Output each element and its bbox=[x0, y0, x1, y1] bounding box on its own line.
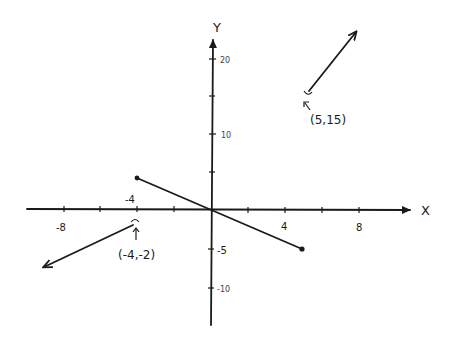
open-endpoint-right bbox=[304, 91, 312, 94]
annotation-right-label: (5,15) bbox=[310, 113, 346, 127]
annotation-arrow-right bbox=[305, 103, 310, 110]
y-axis-line bbox=[211, 40, 213, 325]
x-axis-label: X bbox=[421, 203, 430, 218]
open-endpoint-left bbox=[131, 220, 139, 223]
annotation-left-label: (-4,-2) bbox=[118, 248, 155, 262]
x-tick-label-neg8: -8 bbox=[56, 222, 66, 233]
right-ray-line bbox=[309, 32, 356, 91]
y-axis: Y 20 10 -5 -10 bbox=[208, 20, 231, 325]
y-axis-label: Y bbox=[212, 20, 221, 35]
x-tick-label-4: 4 bbox=[281, 221, 287, 232]
piecewise-graph: X -8 -4 4 8 Y 20 10 -5 -10 bbox=[0, 0, 461, 350]
y-tick-label-20: 20 bbox=[220, 56, 230, 65]
x-tick-label-neg4: -4 bbox=[125, 194, 135, 205]
middle-segment-line bbox=[137, 178, 302, 249]
x-tick-label-8: 8 bbox=[356, 222, 362, 233]
right-ray: (5,15) bbox=[304, 32, 356, 127]
closed-endpoint-left bbox=[135, 176, 140, 181]
middle-segment bbox=[135, 176, 305, 252]
closed-endpoint-right bbox=[299, 246, 304, 251]
y-tick-label-neg10: -10 bbox=[217, 285, 230, 294]
x-axis-line bbox=[27, 209, 410, 210]
y-tick-label-10: 10 bbox=[221, 131, 231, 140]
x-axis: X -8 -4 4 8 bbox=[27, 194, 430, 233]
y-tick-label-neg5: -5 bbox=[217, 245, 227, 256]
